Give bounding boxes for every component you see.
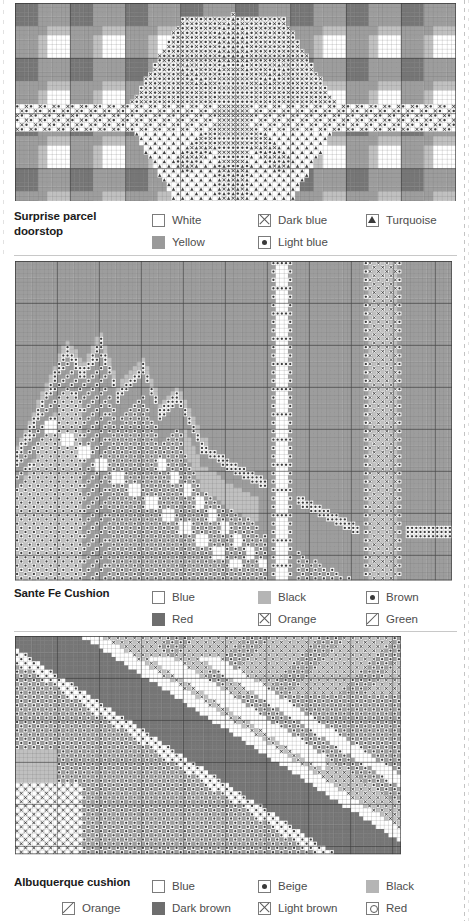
dot-square-icon xyxy=(366,591,379,604)
dot-square-icon xyxy=(258,880,271,893)
legend-item-light-brown: Light brown xyxy=(258,902,366,915)
legend-label: Dark brown xyxy=(172,902,231,915)
legend-label: Blue xyxy=(172,880,195,893)
legend-item-orange: Orange xyxy=(258,613,366,626)
right-trim-guide xyxy=(464,0,465,921)
legend-item-brown: Brown xyxy=(366,591,470,604)
x-square-icon xyxy=(258,902,271,915)
legend-row: Red Orange Green xyxy=(152,608,470,630)
divider-2 xyxy=(14,631,457,632)
legend-label: Green xyxy=(386,613,418,626)
legend-label: Orange xyxy=(82,902,120,915)
legend-item-black: Black xyxy=(366,880,470,893)
page-canvas: Surprise parcel doorstop White Dark blue… xyxy=(0,0,471,921)
legend-label: White xyxy=(172,214,201,227)
legend-title-1-line2: doorstop xyxy=(14,225,63,237)
legend-label: Yellow xyxy=(172,236,205,249)
legend-item-white: White xyxy=(152,214,258,227)
legend-label: Dark blue xyxy=(278,214,327,227)
legend-label: Orange xyxy=(278,613,316,626)
legend-label: Turquoise xyxy=(386,214,437,227)
legend-items-1: White Dark blue Turquoise Yellow xyxy=(152,209,470,253)
legend-item-orange: Orange xyxy=(62,902,152,915)
legend-item-blue: Blue xyxy=(152,591,258,604)
empty-square-icon xyxy=(152,214,165,227)
legend-title-2: Sante Fe Cushion xyxy=(14,586,154,601)
x-square-icon xyxy=(258,214,271,227)
legend-label: Red xyxy=(172,613,193,626)
legend-label: Black xyxy=(386,880,414,893)
filled-square-icon xyxy=(258,591,271,604)
legend-title-3-line1: Albuquerque cushion xyxy=(14,876,130,888)
legend-item-green: Green xyxy=(366,613,470,626)
legend-surprise-parcel-doorstop: Surprise parcel doorstop White Dark blue… xyxy=(0,209,471,253)
legend-label: Black xyxy=(278,591,306,604)
legend-row: Orange Dark brown Light brown Red xyxy=(62,897,470,919)
dot-square-icon xyxy=(258,236,271,249)
slash-square-icon xyxy=(62,902,75,915)
legend-item-blue: Blue xyxy=(152,880,258,893)
legend-row: Blue Beige Black xyxy=(152,875,470,897)
chart-surprise-parcel-doorstop xyxy=(15,3,456,201)
slash-square-icon xyxy=(366,613,379,626)
legend-item-red: Red xyxy=(152,613,258,626)
filled-square-icon xyxy=(366,880,379,893)
legend-items-2: Blue Black Brown Red Orange xyxy=(152,586,470,630)
legend-title-2-line1: Sante Fe Cushion xyxy=(14,587,110,599)
legend-label: Brown xyxy=(386,591,419,604)
empty-square-icon xyxy=(152,880,165,893)
legend-item-dark-blue: Dark blue xyxy=(258,214,366,227)
circle-square-icon xyxy=(366,902,379,915)
chart-albuquerque-cushion xyxy=(15,636,401,868)
legend-title-1: Surprise parcel doorstop xyxy=(14,209,154,238)
legend-row: White Dark blue Turquoise xyxy=(152,209,470,231)
legend-label: Blue xyxy=(172,591,195,604)
legend-title-3: Albuquerque cushion xyxy=(14,875,154,890)
legend-item-black: Black xyxy=(258,591,366,604)
legend-label: Beige xyxy=(278,880,307,893)
legend-row: Yellow Light blue xyxy=(152,231,470,253)
legend-albuquerque-cushion: Albuquerque cushion Blue Beige Black xyxy=(0,875,471,919)
legend-item-light-blue: Light blue xyxy=(258,236,366,249)
filled-square-icon xyxy=(152,902,165,915)
chart-sante-fe-cushion xyxy=(15,261,452,581)
filled-square-icon xyxy=(152,236,165,249)
legend-row: Blue Black Brown xyxy=(152,586,470,608)
legend-label: Light brown xyxy=(278,902,337,915)
legend-title-1-line1: Surprise parcel xyxy=(14,210,96,222)
legend-item-red: Red xyxy=(366,902,436,915)
legend-sante-fe-cushion: Sante Fe Cushion Blue Black Brown xyxy=(0,586,471,630)
legend-items-3: Blue Beige Black Orange Dark b xyxy=(152,875,470,919)
divider-1 xyxy=(14,255,457,256)
empty-square-icon xyxy=(152,591,165,604)
legend-item-dark-brown: Dark brown xyxy=(152,902,258,915)
legend-item-yellow: Yellow xyxy=(152,236,258,249)
x-square-icon xyxy=(258,613,271,626)
legend-label: Red xyxy=(386,902,407,915)
legend-label: Light blue xyxy=(278,236,328,249)
legend-item-beige: Beige xyxy=(258,880,366,893)
right-trim-guide-secondary xyxy=(468,0,469,921)
triangle-square-icon xyxy=(366,214,379,227)
filled-square-icon xyxy=(152,613,165,626)
legend-item-turquoise: Turquoise xyxy=(366,214,470,227)
